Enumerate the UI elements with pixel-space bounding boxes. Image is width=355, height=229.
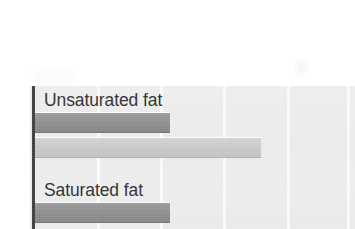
gridline-5 [347,86,350,229]
bar-saturated-series-1 [35,202,170,223]
plot-clip-region: Unsaturated fat Saturated fat [30,86,355,229]
bar-unsaturated-series-2 [35,137,261,158]
bar-unsaturated-series-1 [35,112,170,133]
horizontal-bar-chart: Unsaturated fat Saturated fat [30,86,355,229]
scan-artifact-smudge [34,70,74,84]
scan-artifact-smudge-right [296,60,306,74]
category-label-saturated-fat: Saturated fat [44,180,143,200]
gridline-4 [287,86,290,229]
scanned-page: Unsaturated fat Saturated fat [0,0,355,229]
category-label-unsaturated-fat: Unsaturated fat [44,90,162,110]
